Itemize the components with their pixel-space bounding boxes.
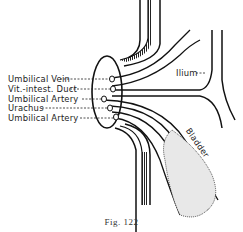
- label-urachus: Urachus: [8, 103, 44, 113]
- ileum: [200, 30, 235, 128]
- label-ilium: Ilium: [176, 68, 198, 78]
- label-umbilical-artery-2: Umbilical Artery: [8, 113, 79, 123]
- bladder: [164, 130, 216, 217]
- figure-caption: Fig. 122: [0, 217, 243, 227]
- abdominal-wall-upper: [120, 0, 160, 66]
- label-vit-intest-duct: Vit.-intest. Duct: [8, 84, 77, 94]
- abdominal-wall-lower: [115, 124, 150, 232]
- label-umbilical-vein: Umbilical Vein: [8, 74, 70, 84]
